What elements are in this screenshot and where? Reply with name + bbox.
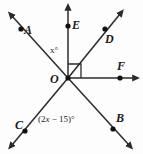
ray-oa-line [12, 16, 68, 78]
angle-label-2x-minus-15: (2x − 15)° [38, 115, 75, 124]
point-c-dot [22, 128, 27, 133]
point-c-label: C [15, 119, 23, 131]
point-d-label: D [105, 33, 114, 45]
geometry-figure: A B C D E F O x° (2x − 15)° [0, 0, 143, 154]
angle-label-x: x° [50, 46, 58, 55]
point-e-label: E [72, 19, 80, 31]
point-o-label: O [50, 73, 59, 85]
point-e-dot [65, 23, 70, 28]
point-d-dot [102, 26, 107, 31]
point-f-dot [117, 75, 122, 80]
point-a-dot [18, 26, 23, 31]
point-f-label: F [117, 60, 125, 72]
ray-oc-line [12, 78, 68, 145]
point-b-dot [110, 126, 115, 131]
angle-2x-suffix: − 15)° [50, 114, 75, 124]
point-b-label: B [116, 112, 124, 124]
point-o-dot [65, 75, 70, 80]
point-a-label: A [24, 24, 32, 36]
angle-2x-prefix: (2 [38, 114, 46, 124]
